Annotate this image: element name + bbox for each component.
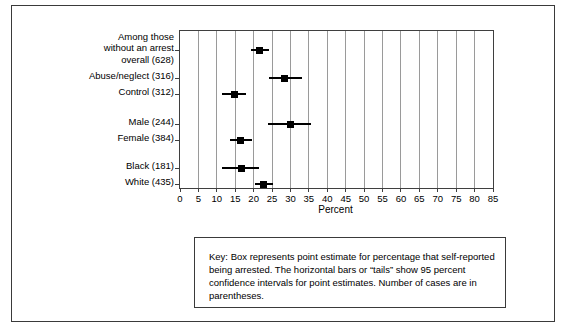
gridline <box>364 31 365 188</box>
row-label-line: Among those <box>12 31 174 43</box>
row-label: White (435) <box>12 176 174 187</box>
gridline <box>400 31 401 188</box>
y-axis-tick <box>175 124 180 125</box>
gridline <box>216 31 217 188</box>
point-estimate-marker <box>260 181 267 188</box>
point-estimate-marker <box>256 47 263 54</box>
key-text: Key: Box represents point estimate for p… <box>209 250 495 302</box>
gridline <box>290 31 291 188</box>
row-label-line: Female (384) <box>12 132 174 143</box>
row-label-line: without an arrest <box>12 42 174 54</box>
plot-area: 0510152025303540455055606570758085 <box>179 30 494 189</box>
x-axis-tick <box>382 188 383 192</box>
gridline <box>474 31 475 188</box>
gridline <box>308 31 309 188</box>
gridline <box>437 31 438 188</box>
row-label-line: White (435) <box>12 176 174 187</box>
x-axis-tick <box>235 188 236 192</box>
point-estimate-marker <box>237 137 244 144</box>
row-label-line: Abuse/neglect (316) <box>12 70 174 81</box>
x-axis-tick <box>419 188 420 192</box>
gridline <box>327 31 328 188</box>
x-axis-tick <box>400 188 401 192</box>
point-estimate-marker <box>238 165 245 172</box>
row-label: Male (244) <box>12 116 174 127</box>
x-axis-tick <box>290 188 291 192</box>
gridline <box>272 31 273 188</box>
y-axis-tick <box>175 168 180 169</box>
gridline <box>382 31 383 188</box>
row-label-line: Black (181) <box>12 160 174 171</box>
point-estimate-marker <box>231 91 238 98</box>
x-axis-tick <box>327 188 328 192</box>
x-axis-tick-label: 85 <box>481 193 505 204</box>
x-axis-tick <box>180 188 181 192</box>
gridline <box>235 31 236 188</box>
x-axis-tick <box>198 188 199 192</box>
row-label-line: Control (312) <box>12 86 174 97</box>
point-estimate-marker <box>281 75 288 82</box>
key-box: Key: Box represents point estimate for p… <box>194 237 506 308</box>
x-axis-tick <box>364 188 365 192</box>
figure-frame: Among thosewithout an arrestoverall (628… <box>11 5 555 322</box>
x-axis-tick <box>474 188 475 192</box>
y-axis-tick <box>175 184 180 185</box>
row-label-column: Among thosewithout an arrestoverall (628… <box>12 6 174 196</box>
row-label: Among thosewithout an arrestoverall (628… <box>12 31 174 66</box>
point-estimate-marker <box>287 121 294 128</box>
y-axis-tick <box>175 50 180 51</box>
gridline <box>198 31 199 188</box>
x-axis-tick <box>253 188 254 192</box>
x-axis-tick <box>272 188 273 192</box>
gridline <box>253 31 254 188</box>
gridline <box>419 31 420 188</box>
x-axis-tick <box>456 188 457 192</box>
row-label: Black (181) <box>12 160 174 171</box>
row-label: Abuse/neglect (316) <box>12 70 174 81</box>
x-axis-tick <box>437 188 438 192</box>
gridline <box>456 31 457 188</box>
x-axis-tick <box>216 188 217 192</box>
row-label-line: Male (244) <box>12 116 174 127</box>
y-axis-tick <box>175 140 180 141</box>
row-label-line: overall (628) <box>12 54 174 66</box>
gridline <box>345 31 346 188</box>
row-label: Female (384) <box>12 132 174 143</box>
x-axis-tick <box>345 188 346 192</box>
y-axis-tick <box>175 94 180 95</box>
y-axis-tick <box>175 78 180 79</box>
x-axis-tick <box>308 188 309 192</box>
x-axis-tick <box>493 188 494 192</box>
row-label: Control (312) <box>12 86 174 97</box>
x-axis-title: Percent <box>179 204 492 215</box>
